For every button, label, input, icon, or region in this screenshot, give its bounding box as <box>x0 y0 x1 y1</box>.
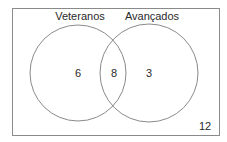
set-label-veteranos: Veteranos <box>55 10 105 22</box>
venn-diagram: Veteranos Avançados 6 8 3 12 <box>0 0 227 142</box>
count-outside: 12 <box>199 120 211 132</box>
count-intersection: 8 <box>111 67 117 79</box>
count-avancados-only: 3 <box>146 67 152 79</box>
set-label-avancados: Avançados <box>125 10 180 22</box>
count-veteranos-only: 6 <box>75 67 81 79</box>
